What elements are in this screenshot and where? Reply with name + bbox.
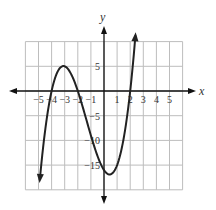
cubic-function-graph: −5−4−3−2−1123455−5−10−15 x y [0,0,216,210]
curve-right-arrow-icon [131,32,138,41]
y-tick-label: −5 [89,111,100,122]
y-tick-label: 5 [95,61,100,72]
tick-labels: −5−4−3−2−1123455−5−10−15 [33,61,172,171]
x-axis-right-arrow-icon [188,88,196,94]
x-tick-label: −5 [33,94,44,105]
x-tick-label: 5 [167,94,172,105]
y-axis-label: y [99,10,106,24]
y-tick-label: −15 [84,160,100,171]
x-tick-label: −3 [59,94,70,105]
y-axis-down-arrow-icon [101,196,107,204]
x-tick-label: 1 [115,94,120,105]
x-tick-label: −1 [86,94,97,105]
axes [9,26,196,204]
x-tick-label: 4 [154,94,159,105]
x-axis-left-arrow-icon [9,88,17,94]
x-axis-label: x [198,84,205,98]
curve-left-arrow-icon [37,174,44,183]
x-tick-label: 3 [141,94,146,105]
function-curve [40,35,136,180]
y-axis-up-arrow-icon [101,26,107,34]
